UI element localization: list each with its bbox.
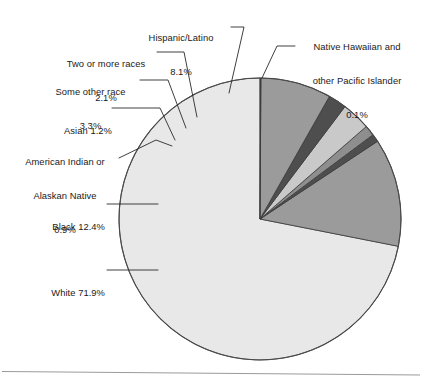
chart-figure: White 71.9%Black 12.4%American Indian or… [0,0,422,382]
leader-native-hawaiian [262,46,295,78]
callout-white-line1: White 71.9% [17,287,105,298]
callout-american-indian-line1: American Indian or [11,156,119,167]
callout-native-hawaiian: Native Hawaiian and other Pacific Island… [296,18,418,143]
callout-native-hawaiian-line2: other Pacific Islander [296,75,418,86]
callout-white: White 71.9% [17,264,105,321]
callout-black: Black 12.4% [17,198,105,255]
callout-native-hawaiian-line3: 0.1% [296,109,418,120]
callout-black-line1: Black 12.4% [17,221,105,232]
callout-some-other-race-line1: Some other race [41,86,140,97]
bottom-rule [2,372,420,376]
callout-native-hawaiian-line1: Native Hawaiian and [296,41,418,52]
